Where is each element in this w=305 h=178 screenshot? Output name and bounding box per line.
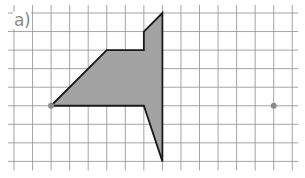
grid-diagram xyxy=(0,0,305,178)
left-point xyxy=(48,103,54,109)
exercise-label: a) xyxy=(13,12,31,29)
right-point xyxy=(271,103,277,109)
